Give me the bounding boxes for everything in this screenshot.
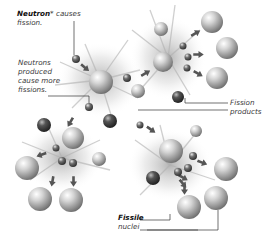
neutron-label-line2: fission. <box>17 18 42 27</box>
fissile-nuclei-label: Fissile nuclei <box>118 213 144 231</box>
fission-line1: Fission <box>230 98 255 107</box>
fission-illustration <box>0 0 273 242</box>
fission-diagram: Neutron* causes fission. Neutrons produc… <box>0 0 273 242</box>
neutron-label: Neutron* causes fission. <box>17 9 81 27</box>
neutrons-produced-label: Neutrons produced cause more fissions. <box>18 58 60 94</box>
produced-line2: produced <box>18 67 52 76</box>
fissile-line2: nuclei <box>118 222 139 231</box>
produced-line3: cause more <box>18 76 60 85</box>
neutron-label-bold: Neutron <box>17 9 50 18</box>
produced-line4: fissions. <box>18 85 47 94</box>
neutron-label-rest: causes <box>54 9 81 18</box>
produced-line1: Neutrons <box>18 58 51 67</box>
fission-products-label: Fission products <box>230 98 262 116</box>
fission-line2: products <box>230 107 262 116</box>
fissile-bold: Fissile <box>118 213 144 222</box>
